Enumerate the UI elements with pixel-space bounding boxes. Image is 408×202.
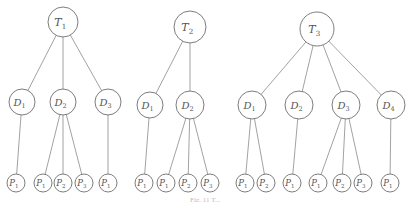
node-t3-d2-p1: P1 <box>283 174 301 192</box>
node-t2-d1-p1: P1 <box>135 174 153 192</box>
node-t3-d2: D2 <box>285 91 313 119</box>
node-t3-d1-p2: P2 <box>257 174 275 192</box>
node-t2-d2: D2 <box>176 91 204 119</box>
node-t1-d2-p1: P1 <box>34 174 52 192</box>
node-t3-d3: D3 <box>332 91 360 119</box>
node-t2-d2-p3: P3 <box>201 174 219 192</box>
node-t2: T2 <box>174 11 206 43</box>
node-t3-d3-p1: P1 <box>309 174 327 192</box>
nodes: T1D1P1D2P1P2P3D3P1T2D1P1D2P1P2P3T3D1P1P2… <box>7 7 405 192</box>
node-t1-d2: D2 <box>50 89 76 115</box>
node-t3-d4-p1: P1 <box>381 174 399 192</box>
node-t1-d1-p1: P1 <box>7 174 25 192</box>
node-t2-d1: D1 <box>137 92 163 118</box>
node-t3-d4: D4 <box>377 91 405 119</box>
node-t1-d1: D1 <box>9 89 35 115</box>
node-t1-d2-p2: P2 <box>54 174 72 192</box>
node-t2-d2-p2: P2 <box>179 174 197 192</box>
node-t3-d3-p2: P2 <box>333 174 351 192</box>
node-t2-d2-p1: P1 <box>157 174 175 192</box>
figure-caption: Fig. 11 T... <box>190 196 220 202</box>
node-t3-d1: D1 <box>238 91 266 119</box>
node-t1: T1 <box>48 7 78 37</box>
tree-diagram: T1D1P1D2P1P2P3D3P1T2D1P1D2P1P2P3T3D1P1P2… <box>0 0 408 202</box>
node-t1-d2-p3: P3 <box>75 174 93 192</box>
node-t3: T3 <box>300 12 334 46</box>
node-t1-d3-p1: P1 <box>99 174 117 192</box>
node-t1-d3: D3 <box>95 89 121 115</box>
node-t3-d3-p3: P3 <box>354 174 372 192</box>
node-t3-d1-p1: P1 <box>236 174 254 192</box>
